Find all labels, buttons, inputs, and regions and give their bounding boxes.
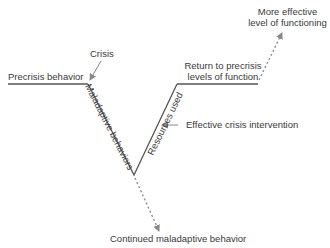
crisis-label: Crisis	[90, 48, 114, 59]
intervention-label: Effective crisis intervention	[186, 119, 298, 130]
continued-label: Continued maladaptive behavior	[110, 233, 246, 244]
more-effective-line2: level of functioning	[245, 17, 330, 28]
return-label-line2: levels of function	[178, 71, 268, 82]
more-effective-label: More effective level of functioning	[245, 6, 330, 28]
crisis-intervention-diagram: Crisis Precrisis behavior Maladaptive be…	[0, 0, 330, 248]
precrisis-label: Precrisis behavior	[8, 71, 84, 82]
continued-dotted-arrow	[135, 178, 159, 231]
return-label: Return to precrisis levels of function	[178, 60, 268, 82]
crisis-arrow	[90, 61, 101, 80]
more-effective-line1: More effective	[245, 6, 330, 17]
return-label-line1: Return to precrisis	[178, 60, 268, 71]
